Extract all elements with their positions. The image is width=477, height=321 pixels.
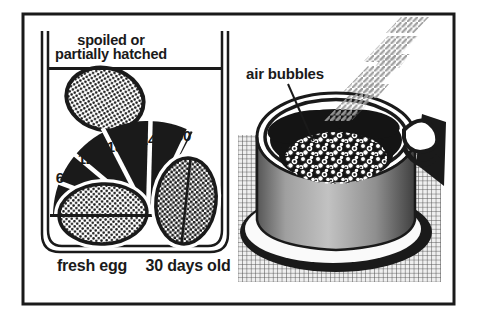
age-tick-24: 24 — [140, 131, 157, 148]
age-tick-18: 18 — [107, 138, 124, 155]
egg-freshness-diagram: spoiled or partially hatched 6 12 18 24 … — [0, 0, 477, 321]
air-bubbles-label: air bubbles — [246, 65, 324, 82]
fresh-egg-label: fresh egg — [57, 257, 127, 274]
egg-freshness-figure: spoiled or partially hatched 6 12 18 24 … — [0, 0, 477, 321]
age-tick-12: 12 — [78, 150, 95, 167]
air-bubbles-cluster — [285, 132, 387, 184]
old-egg — [152, 155, 221, 247]
pot-handle — [404, 120, 437, 152]
float-caption-line2: partially hatched — [55, 46, 167, 62]
age-tick-30: 30 — [175, 127, 192, 144]
age-tick-6: 6 — [56, 169, 64, 186]
old-egg-label: 30 days old — [146, 257, 231, 274]
